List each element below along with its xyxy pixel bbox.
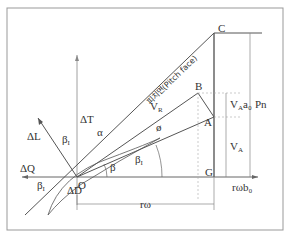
label-r-omega: rω (140, 198, 151, 210)
label-beta: β (110, 161, 116, 173)
line-BA (198, 93, 214, 117)
point-C: C (218, 22, 225, 34)
label-dL: ΔL (27, 130, 41, 142)
thrust-arrow-icon (75, 55, 79, 61)
label-dD: ΔD (67, 184, 82, 196)
label-beta-1-bottom: βI (37, 179, 46, 193)
angle-arc-phi (156, 145, 162, 177)
lift-vector (38, 118, 77, 177)
label-VA: VA (230, 140, 243, 154)
label-beta-I: βI (135, 153, 144, 167)
label-alpha: α (97, 126, 103, 138)
torque-arrow-icon (22, 175, 28, 179)
frame-border (7, 8, 283, 230)
label-Pn: Pn (255, 98, 267, 110)
label-dQ: ΔQ (20, 162, 35, 174)
label-VR: VR (150, 100, 163, 114)
axis-arrow (252, 175, 258, 179)
propeller-blade-element-diagram: 피치면(Pitch face) C B A G O ΔT ΔL ΔQ ΔD VR… (0, 0, 290, 237)
angle-arc-beta (104, 164, 107, 177)
point-G: G (205, 166, 213, 178)
label-VAa0: VAa₀ (230, 98, 252, 112)
point-A: A (204, 116, 212, 128)
label-r-omega-b0: rωb₀ (232, 181, 252, 193)
point-B: B (195, 80, 202, 92)
label-dT: ΔT (80, 113, 94, 125)
label-phi: ø (156, 121, 162, 133)
label-beta-1-top: βI (62, 133, 71, 147)
